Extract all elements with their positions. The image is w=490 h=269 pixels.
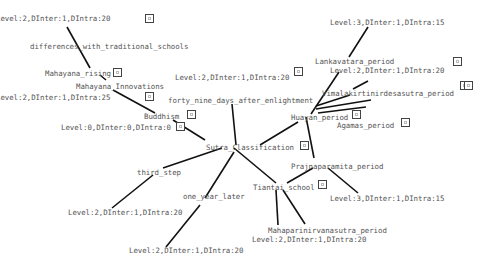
node-badge-icon[interactable]	[113, 68, 122, 77]
node-label[interactable]: Level:3,DInter:1,DIntra:15	[330, 194, 444, 203]
node-label[interactable]: Level:3,DInter:1,DIntra:15	[330, 18, 444, 27]
node-badge-icon[interactable]	[300, 141, 309, 150]
edge-layer	[0, 0, 490, 269]
node-label[interactable]: Level:2,DInter:1,DIntra:25	[0, 93, 110, 102]
node-label[interactable]: third_step	[137, 168, 181, 177]
node-label[interactable]: Level:2,DInter:1,DIntra:20	[175, 73, 289, 82]
node-label[interactable]: Level:2,DInter:1,DIntra:20	[252, 235, 366, 244]
edge	[328, 168, 358, 193]
node-label[interactable]: Level:2,DInter:1,DIntra:20	[68, 208, 182, 217]
node-badge-icon[interactable]	[352, 110, 361, 119]
node-badge-icon[interactable]	[318, 180, 327, 189]
node-label[interactable]: Level:2,DInter:1,DIntra:20	[129, 246, 243, 255]
node-label[interactable]: Agamas_period	[337, 121, 394, 130]
node-badge-icon[interactable]	[145, 92, 154, 101]
node-label[interactable]: Prajnaparamita_period	[291, 162, 383, 171]
edge	[276, 190, 278, 225]
edge	[260, 122, 298, 145]
node-label[interactable]: one_year_later	[183, 192, 245, 201]
node-label[interactable]: differences_with_traditional_schools	[30, 42, 188, 51]
node-label[interactable]: Vimalakirtinirdesasutra_period	[322, 89, 454, 98]
edge	[306, 117, 314, 158]
node-label[interactable]: Mahayana_rising	[45, 69, 111, 78]
edge	[234, 148, 276, 183]
edge	[112, 175, 153, 208]
diagram-canvas: Level:2,DInter:1,DIntra:20differences_wi…	[0, 0, 490, 269]
edge	[349, 27, 368, 57]
node-badge-icon[interactable]	[176, 122, 185, 131]
node-label[interactable]: Sutra_Classification	[206, 143, 294, 152]
node-label[interactable]: Tiantai_school	[253, 183, 315, 192]
edge	[353, 81, 368, 89]
node-badge-icon[interactable]	[187, 110, 196, 119]
node-badge-icon[interactable]	[464, 81, 473, 90]
node-badge-icon[interactable]	[145, 14, 154, 23]
edge	[232, 104, 236, 145]
node-label[interactable]: Level:2,DInter:1,DIntra:20	[330, 66, 444, 75]
edge	[283, 190, 305, 224]
node-badge-icon[interactable]	[294, 67, 303, 76]
node-label[interactable]: Level:0,DInter:0,DIntra:0	[61, 123, 171, 132]
node-label[interactable]: forty_nine_days_after_enlightment	[168, 96, 313, 105]
node-label[interactable]: Mahaparinirvanasutra_period	[268, 226, 387, 235]
node-label[interactable]: Level:2,DInter:1,DIntra:20	[0, 14, 110, 23]
node-badge-icon[interactable]	[453, 57, 462, 66]
node-label[interactable]: Buddhism	[144, 112, 179, 121]
node-badge-icon[interactable]	[401, 118, 410, 127]
node-label[interactable]: Mahayana_Innovations	[76, 82, 164, 91]
node-label[interactable]: Lankavatara_period	[315, 57, 394, 66]
